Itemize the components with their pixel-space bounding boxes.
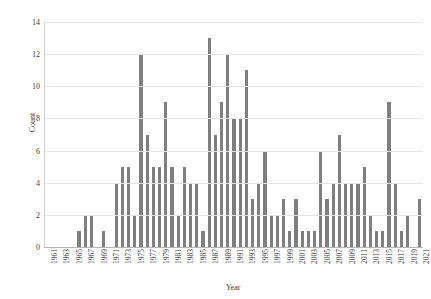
x-tick-label: 2019: [410, 249, 419, 264]
bar: [381, 231, 384, 247]
x-tick-label: 1985: [199, 249, 208, 264]
bar: [164, 102, 167, 247]
bar: [158, 167, 161, 247]
x-tick-label: 1963: [62, 249, 71, 264]
y-tick-label: 12: [32, 50, 40, 59]
x-tick-label: 1977: [149, 249, 158, 264]
x-tick-label: 1995: [261, 249, 270, 264]
bar: [170, 167, 173, 247]
bar: [313, 231, 316, 247]
x-tick-label: 1991: [236, 249, 245, 264]
x-tick-label: 1975: [137, 249, 146, 264]
x-tick-label: 2003: [310, 249, 319, 264]
bar: [387, 102, 390, 247]
x-tick-label: 1993: [248, 249, 257, 264]
x-tick-label: 2009: [348, 249, 357, 264]
x-tick-label: 2021: [422, 249, 431, 264]
x-tick-label: 1997: [273, 249, 282, 264]
bar: [263, 151, 266, 247]
bar: [270, 215, 273, 247]
x-tick-label: 2011: [360, 249, 369, 264]
x-tick-label: 2013: [372, 249, 381, 264]
y-tick-label: 6: [36, 146, 40, 155]
x-tick-label: 2007: [335, 249, 344, 264]
x-tick-label: 1999: [286, 249, 295, 264]
x-tick-label: 2001: [298, 249, 307, 264]
plot-area: [44, 22, 423, 248]
y-tick-label: 4: [36, 178, 40, 187]
bar: [152, 167, 155, 247]
bar: [77, 231, 80, 247]
bar: [251, 199, 254, 247]
bar: [84, 215, 87, 247]
bar: [177, 215, 180, 247]
bar: [325, 199, 328, 247]
bar: [276, 215, 279, 247]
x-tick-label: 2015: [385, 249, 394, 264]
y-axis-ticks: 02468101214: [0, 0, 44, 299]
x-axis-title: Year: [44, 283, 422, 292]
x-tick-label: 1981: [174, 249, 183, 264]
bar: [294, 199, 297, 247]
x-tick-label: 1969: [100, 249, 109, 264]
bar: [418, 199, 421, 247]
bar: [363, 167, 366, 247]
bar: [400, 231, 403, 247]
x-tick-label: 1983: [186, 249, 195, 264]
x-tick-label: 1965: [75, 249, 84, 264]
gridline: [45, 183, 423, 184]
bar: [90, 215, 93, 247]
bar: [301, 231, 304, 247]
bar: [319, 151, 322, 247]
bar: [375, 231, 378, 247]
x-tick-label: 1979: [162, 249, 171, 264]
bar: [406, 215, 409, 247]
bar: [121, 167, 124, 247]
x-tick-label: 1967: [87, 249, 96, 264]
gridline: [45, 215, 423, 216]
bar: [307, 231, 310, 247]
bar: [183, 167, 186, 247]
bar: [102, 231, 105, 247]
y-tick-label: 0: [36, 243, 40, 252]
bar: [127, 167, 130, 247]
bar: [288, 231, 291, 247]
x-tick-label: 2017: [397, 249, 406, 264]
bar: [282, 199, 285, 247]
gridline: [45, 118, 423, 119]
y-tick-label: 2: [36, 210, 40, 219]
y-tick-label: 14: [32, 18, 40, 27]
bar: [220, 102, 223, 247]
y-tick-label: 10: [32, 82, 40, 91]
gridline: [45, 151, 423, 152]
bar: [133, 215, 136, 247]
x-tick-label: 1989: [224, 249, 233, 264]
bars-layer: [45, 22, 423, 247]
x-tick-label: 1971: [112, 249, 121, 264]
x-tick-label: 1973: [124, 249, 133, 264]
gridline: [45, 86, 423, 87]
x-tick-label: 1987: [211, 249, 220, 264]
bar: [201, 231, 204, 247]
gridline: [45, 22, 423, 23]
x-axis-ticks: 1961196319651967196919711973197519771979…: [44, 249, 422, 281]
x-tick-label: 1961: [50, 249, 59, 264]
bar: [369, 215, 372, 247]
y-tick-label: 8: [36, 114, 40, 123]
bar: [245, 70, 248, 247]
x-tick-label: 2005: [323, 249, 332, 264]
gridline: [45, 54, 423, 55]
